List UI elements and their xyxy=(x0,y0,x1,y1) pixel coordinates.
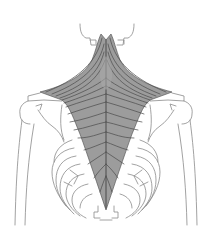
anatomy-svg xyxy=(0,0,212,234)
trapezius-illustration: Trapezius muscle, posterior view xyxy=(0,0,212,234)
